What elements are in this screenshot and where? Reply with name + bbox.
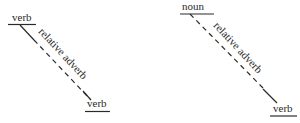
top-word-verb: verb (12, 11, 32, 23)
connector-dashed-line (190, 14, 265, 90)
diagram-noun-to-verb: noun relative adverb verb (180, 0, 297, 116)
diagram-verb-to-verb: verb relative adverb verb (8, 11, 110, 112)
bottom-word-verb: verb (273, 102, 293, 114)
connector-label: relative adverb (212, 19, 266, 76)
sentence-diagrams: verb relative adverb verb noun relative … (0, 0, 300, 123)
connector-label: relative adverb (37, 25, 91, 82)
bottom-word-verb: verb (87, 97, 107, 109)
connector-solid-line (263, 89, 277, 103)
connector-solid-line (20, 25, 34, 40)
top-word-noun: noun (182, 0, 205, 12)
